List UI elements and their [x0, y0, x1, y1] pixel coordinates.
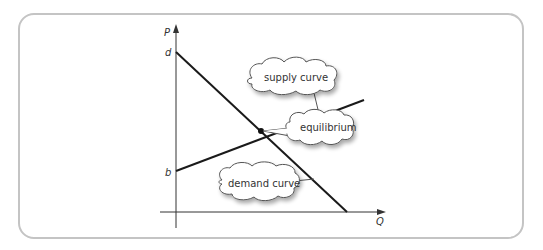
supply-callout: supply curve [248, 57, 337, 118]
supply-demand-diagram: P Q d b supply curve equilibrium demand … [0, 0, 543, 250]
supply-callout-text: supply curve [264, 72, 328, 83]
demand-intercept-label: d [165, 47, 172, 58]
supply-intercept-label: b [165, 167, 171, 178]
x-axis-label: Q [376, 216, 384, 227]
demand-callout-text: demand curve [228, 178, 300, 189]
equilibrium-callout-text: equilibrium [300, 122, 357, 133]
y-axis-arrow-icon [173, 24, 179, 33]
y-axis-label: P [164, 27, 171, 38]
equilibrium-callout: equilibrium [263, 109, 357, 144]
x-axis-arrow-icon [377, 209, 386, 215]
